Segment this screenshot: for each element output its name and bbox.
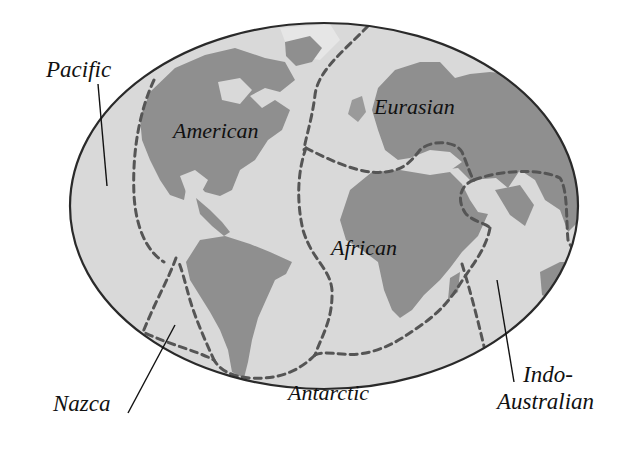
label-indo: Indo- <box>522 362 573 387</box>
label-nazca: Nazca <box>52 391 111 416</box>
label-eurasian: Eurasian <box>373 94 455 119</box>
plate-tectonics-map: Pacific American Eurasian African Nazca … <box>0 0 637 458</box>
label-australian: Australian <box>495 389 594 414</box>
label-antarctic: Antarctic <box>286 380 369 405</box>
label-pacific: Pacific <box>45 57 111 82</box>
label-african: African <box>329 235 397 260</box>
label-american: American <box>171 118 259 143</box>
